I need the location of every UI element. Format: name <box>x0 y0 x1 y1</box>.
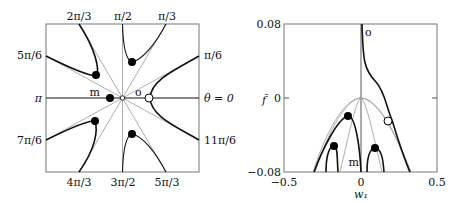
label-2pi-3: 2π/3 <box>67 10 92 23</box>
label-theta-0: θ = 0 <box>204 92 234 105</box>
filled-point <box>128 130 136 138</box>
filled-point <box>92 71 100 79</box>
center-point <box>120 96 124 100</box>
filled-point <box>128 58 136 66</box>
label-3pi-2: 3π/2 <box>111 176 136 189</box>
right-panel: o m 0.08 0 −0.08 f̃ −0.5 0 0.5 w₁ <box>247 18 445 201</box>
label-5pi-3: 5π/3 <box>155 176 180 189</box>
filled-point <box>91 117 99 125</box>
label-4pi-3: 4π/3 <box>67 176 92 189</box>
y-axis-label: f̃ <box>261 94 268 107</box>
ytick-mid: 0 <box>274 92 281 105</box>
label-7pi-6: 7π/6 <box>17 134 42 147</box>
label-pi-2: π/2 <box>114 10 132 23</box>
filled-point <box>344 112 352 120</box>
open-point-o <box>145 94 153 102</box>
label-pi-3: π/3 <box>158 10 176 23</box>
label-5pi-6: 5π/6 <box>17 49 42 62</box>
label-m: m <box>349 156 360 169</box>
label-pi: π <box>34 92 43 105</box>
label-m: m <box>90 86 101 99</box>
open-point-o <box>384 117 392 125</box>
x-axis-label: w₁ <box>354 188 368 201</box>
label-o: o <box>135 86 142 99</box>
filled-point <box>371 144 379 152</box>
label-11pi-6: 11π/6 <box>204 134 236 147</box>
figure: m o 2π/3 π/2 π/3 4π/3 3π/2 5π/3 5π/6 π 7… <box>0 0 460 203</box>
ytick-top: 0.08 <box>257 18 282 31</box>
left-panel: m o 2π/3 π/2 π/3 4π/3 3π/2 5π/3 5π/6 π 7… <box>17 10 236 189</box>
curves <box>313 24 411 172</box>
xtick-right: 0.5 <box>428 176 446 189</box>
xtick-left: −0.5 <box>271 176 298 189</box>
label-o: o <box>365 26 372 39</box>
label-pi-6: π/6 <box>204 49 222 62</box>
filled-point <box>330 142 338 150</box>
filled-point-m <box>106 94 114 102</box>
